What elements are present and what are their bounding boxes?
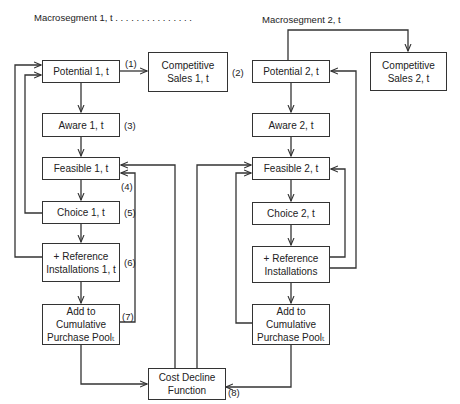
competitive-sales-2-label: Competitive Sales 2, t <box>382 59 435 85</box>
choice-1-box: Choice 1, t <box>42 201 120 224</box>
feasible-1-box: Feasible 1, t <box>42 157 120 180</box>
cost-decline-function-box: Cost Decline Function <box>148 368 226 400</box>
step-label-8: (8) <box>228 387 240 398</box>
step-label-4: (4) <box>121 181 133 192</box>
feasible-2-label: Feasible 2, t <box>264 162 318 175</box>
cumulative-purchase-pool-1-box: Add to Cumulative Purchase Poolₜ <box>42 304 120 345</box>
reference-installations-2-label: + Reference Installations <box>264 252 319 278</box>
reference-installations-2-box: + Reference Installations <box>252 246 330 283</box>
aware-2-label: Aware 2, t <box>269 119 314 132</box>
competitive-sales-2-box: Competitive Sales 2, t <box>370 52 447 91</box>
potential-2-box: Potential 2, t <box>252 60 330 83</box>
feasible-1-label: Feasible 1, t <box>54 162 108 175</box>
step-label-3: (3) <box>124 120 136 131</box>
cumulative-purchase-pool-1-label: Add to Cumulative Purchase Poolₜ <box>43 305 119 344</box>
step-label-7: (7) <box>122 311 134 322</box>
step-label-5: (5) <box>124 207 136 218</box>
feasible-2-box: Feasible 2, t <box>252 157 330 180</box>
potential-1-box: Potential 1, t <box>42 60 120 83</box>
cost-decline-function-label: Cost Decline Function <box>159 371 216 397</box>
competitive-sales-1-box: Competitive Sales 1, t <box>148 52 228 92</box>
reference-installations-1-box: + Reference Installations 1, t <box>42 243 120 282</box>
macrosegment-2-header: Macrosegment 2, t <box>262 14 341 25</box>
step-label-1: (1) <box>125 58 137 69</box>
macrosegment-1-header: Macrosegment 1, t . . . . . . . . . . . … <box>34 12 192 23</box>
reference-installations-1-label: + Reference Installations 1, t <box>46 250 115 276</box>
aware-2-box: Aware 2, t <box>252 113 330 137</box>
choice-2-label: Choice 2, t <box>267 207 315 220</box>
potential-1-label: Potential 1, t <box>53 65 109 78</box>
choice-2-box: Choice 2, t <box>252 202 330 225</box>
step-label-6: (6) <box>124 257 136 268</box>
aware-1-label: Aware 1, t <box>59 119 104 132</box>
aware-1-box: Aware 1, t <box>42 113 120 137</box>
step-label-2: (2) <box>232 67 244 78</box>
cumulative-purchase-pool-2-label: Add to Cumulative Purchase Poolₜ <box>253 305 329 344</box>
choice-1-label: Choice 1, t <box>57 206 105 219</box>
cumulative-purchase-pool-2-box: Add to Cumulative Purchase Poolₜ <box>252 304 330 345</box>
potential-2-label: Potential 2, t <box>263 65 319 78</box>
competitive-sales-1-label: Competitive Sales 1, t <box>162 59 215 85</box>
